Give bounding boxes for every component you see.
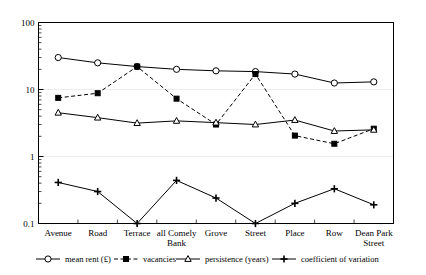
- x-axis-category-label: Road: [88, 228, 107, 238]
- legend-marker: [124, 257, 129, 262]
- series-line: [58, 67, 374, 144]
- legend-item-persistence-years[interactable]: persistence (years): [176, 254, 269, 264]
- series-line: [58, 180, 374, 223]
- chart-figure: 1001010.1 AvenueRoadTerraceall ComelyBan…: [0, 0, 426, 275]
- data-point: [291, 200, 298, 207]
- data-point: [332, 141, 337, 146]
- data-point: [55, 179, 62, 186]
- data-point: [371, 79, 377, 85]
- x-axis-category-labels: AvenueRoadTerraceall ComelyBankGroveStre…: [45, 228, 394, 248]
- data-point: [292, 117, 298, 123]
- legend-label: mean rent (£): [65, 254, 111, 264]
- data-point: [253, 72, 258, 77]
- x-axis-category-label: Grove: [205, 228, 228, 238]
- data-point: [95, 91, 100, 96]
- data-point: [135, 64, 140, 69]
- legend-label: persistence (years): [205, 254, 269, 264]
- legend-item-vacancies[interactable]: vacancies: [114, 254, 176, 264]
- data-point: [56, 95, 61, 100]
- data-point: [292, 71, 298, 77]
- x-axis-category-label: Street: [245, 228, 266, 238]
- series-vacancies: [56, 64, 377, 146]
- data-point: [331, 185, 338, 192]
- data-point: [55, 54, 61, 60]
- data-point: [173, 117, 179, 123]
- data-point: [55, 109, 61, 115]
- x-axis-category-label: Dean Park: [355, 228, 393, 238]
- y-axis-tick-labels: 1001010.1: [21, 18, 35, 229]
- x-axis-category-label: Avenue: [45, 228, 72, 238]
- data-series-group: [55, 54, 378, 227]
- x-axis-category-label: Terrace: [124, 228, 151, 238]
- x-axis-category-label: Place: [285, 228, 305, 238]
- y-axis-tick-label: 10: [26, 85, 36, 95]
- data-point: [370, 201, 377, 208]
- data-point: [213, 68, 219, 74]
- legend-label: vacancies: [143, 254, 176, 264]
- y-axis-tick-label: 1: [30, 152, 35, 162]
- x-axis-category-label: Row: [326, 228, 344, 238]
- legend-label: coefficient of variation: [301, 254, 379, 264]
- data-point: [95, 60, 101, 66]
- series-persistence-years: [55, 109, 377, 133]
- x-axis-category-label: all Comely: [157, 228, 197, 238]
- data-point: [174, 96, 179, 101]
- y-axis-tick-label: 0.1: [23, 219, 34, 229]
- legend-marker: [45, 256, 51, 262]
- data-point: [212, 194, 219, 201]
- data-point: [331, 80, 337, 86]
- legend-item-coefficient-of-variation[interactable]: coefficient of variation: [272, 254, 379, 264]
- data-point: [173, 66, 179, 72]
- series-coefficient-of-variation: [55, 177, 378, 227]
- chart-legend: mean rent (£)vacanciespersistence (years…: [36, 254, 379, 264]
- x-axis-category-label: Street: [363, 238, 384, 248]
- line-chart: 1001010.1 AvenueRoadTerraceall ComelyBan…: [0, 0, 426, 275]
- data-point: [252, 220, 259, 227]
- x-axis-category-label: Bank: [167, 238, 186, 248]
- legend-item-mean-rent[interactable]: mean rent (£): [36, 254, 111, 264]
- data-point: [292, 133, 297, 138]
- y-axis-tick-label: 100: [21, 18, 35, 28]
- series-mean-rent: [55, 54, 377, 86]
